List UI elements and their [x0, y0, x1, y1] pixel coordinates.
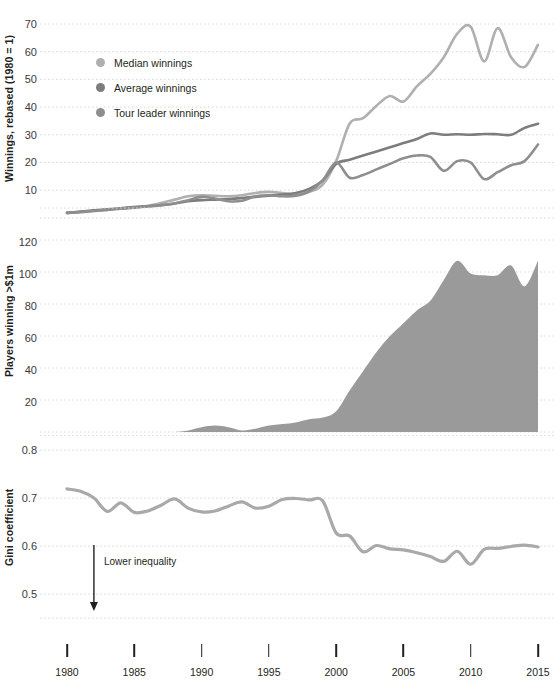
y-tick-0.8: 0.8 [22, 444, 37, 456]
gini-line-chart [40, 440, 555, 640]
panel-millionaires-plot [40, 225, 555, 440]
legend-dot-icon [96, 83, 105, 92]
y-tick-10: 10 [25, 184, 37, 196]
x-tick-label-2015: 2015 [526, 666, 549, 678]
panel-millionaires: Players winning >$1m 120 100 80 60 40 20 [0, 225, 555, 440]
x-tick-label-1995: 1995 [257, 666, 280, 678]
legend-item-median[interactable]: Median winnings [96, 50, 210, 75]
y-tick-60: 60 [25, 332, 37, 344]
legend-label-tour-leader: Tour leader winnings [114, 107, 210, 119]
panel-millionaires-y-ticklabels: 120 100 80 60 40 20 [0, 225, 40, 440]
x-tick-label-1990: 1990 [190, 666, 213, 678]
legend-item-tour-leader[interactable]: Tour leader winnings [96, 100, 210, 125]
y-tick-120: 120 [19, 236, 37, 248]
x-tick-label-2000: 2000 [324, 666, 347, 678]
y-tick-0.7: 0.7 [22, 492, 37, 504]
legend: Median winnings Average winnings Tour le… [96, 50, 210, 125]
y-tick-40: 40 [25, 364, 37, 376]
x-tick-label-1980: 1980 [55, 666, 78, 678]
x-tick-mark-1995 [268, 644, 270, 657]
panel-gini-plot [40, 440, 555, 640]
x-tick-mark-1990 [201, 644, 203, 657]
x-tick-mark-1980 [66, 644, 68, 657]
x-tick-label-1985: 1985 [123, 666, 146, 678]
legend-item-average[interactable]: Average winnings [96, 75, 210, 100]
legend-dot-icon [96, 58, 105, 67]
millionaires-area-chart [40, 225, 555, 440]
x-tick-mark-1985 [133, 644, 135, 657]
panel-winnings: Winnings, rebased (1980 = 1) 70 60 50 40… [0, 0, 555, 225]
panel-winnings-y-ticklabels: 70 60 50 40 30 20 10 [0, 0, 40, 225]
legend-label-median: Median winnings [114, 57, 192, 69]
panel-gini-y-ticklabels: 0.8 0.7 0.6 0.5 [0, 440, 40, 640]
y-tick-100: 100 [19, 268, 37, 280]
y-tick-30: 30 [25, 129, 37, 141]
y-tick-0.5: 0.5 [22, 588, 37, 600]
x-tick-label-2010: 2010 [459, 666, 482, 678]
legend-dot-icon [96, 108, 105, 117]
x-tick-label-2005: 2005 [392, 666, 415, 678]
y-tick-20: 20 [25, 156, 37, 168]
annotation-lower-inequality: Lower inequality [104, 556, 176, 567]
y-tick-20: 20 [25, 396, 37, 408]
x-tick-mark-2000 [335, 644, 337, 657]
y-tick-80: 80 [25, 300, 37, 312]
x-tick-mark-2005 [403, 644, 405, 657]
x-tick-mark-2010 [470, 644, 472, 657]
panel-gini: Gini coefficient 0.8 0.7 0.6 0.5 [0, 440, 555, 640]
y-tick-70: 70 [25, 18, 37, 30]
chart-figure: Winnings, rebased (1980 = 1) 70 60 50 40… [0, 0, 555, 692]
y-tick-50: 50 [25, 73, 37, 85]
y-tick-0.6: 0.6 [22, 540, 37, 552]
legend-label-average: Average winnings [114, 82, 197, 94]
x-tick-mark-2015 [537, 644, 539, 657]
y-tick-40: 40 [25, 101, 37, 113]
x-axis: 19801985199019952000200520102015 [0, 640, 555, 692]
y-tick-60: 60 [25, 46, 37, 58]
